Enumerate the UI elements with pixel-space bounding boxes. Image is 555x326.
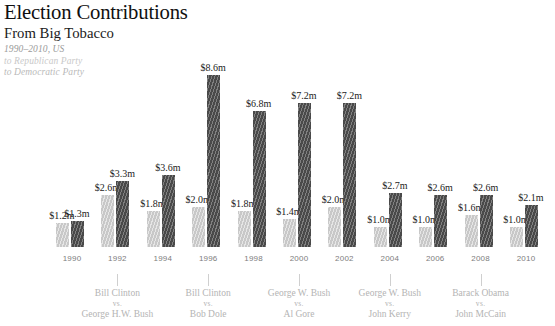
bar-rep-1998[interactable] xyxy=(238,211,251,247)
bar-rep-2008[interactable] xyxy=(465,215,478,247)
axis-tick-label-2006: 2006 xyxy=(415,254,455,263)
bar-group-2004: $1.0m$2.7m xyxy=(370,37,410,247)
bar-group-2006: $1.0m$2.6m xyxy=(415,37,455,247)
bar-rep-1994[interactable] xyxy=(147,211,160,247)
matchup-tick-line xyxy=(208,274,209,286)
bar-dem-2000[interactable] xyxy=(298,103,311,247)
bar-group-2002: $2.0m$7.2m xyxy=(324,37,364,247)
bar-value-label-dem-2002: $7.2m xyxy=(329,90,369,101)
bar-value-label-dem-1998: $6.8m xyxy=(239,98,279,109)
bar-rep-2002[interactable] xyxy=(328,207,341,247)
legend-item-democratic: to Democratic Party xyxy=(4,67,264,79)
bar-dem-1990[interactable] xyxy=(71,221,84,247)
election-matchup-2008: Barack Obamavs.John McCain xyxy=(416,287,546,320)
axis-tick-label-2000: 2000 xyxy=(279,254,319,263)
bar-dem-1996[interactable] xyxy=(207,75,220,247)
bar-value-label-dem-1990: $1.3m xyxy=(57,208,97,219)
matchup-tick-line xyxy=(117,274,118,286)
axis-tick-label-1992: 1992 xyxy=(97,254,137,263)
bar-group-2000: $1.4m$7.2m xyxy=(279,37,319,247)
bar-dem-1994[interactable] xyxy=(162,175,175,247)
bar-rep-1992[interactable] xyxy=(101,195,114,247)
page-title: Election Contributions xyxy=(4,0,248,23)
bar-pair: $1.0m$2.6m xyxy=(415,37,455,247)
matchup-challenger-name: John McCain xyxy=(416,308,546,320)
bar-pair: $1.4m$7.2m xyxy=(279,37,319,247)
matchup-vs-label: vs. xyxy=(416,299,546,308)
bar-pair: $2.0m$7.2m xyxy=(324,37,364,247)
chart-legend: 1990–2010, US to Republican Party to Dem… xyxy=(4,44,264,79)
chart-header: Election Contributions From Big Tobacco … xyxy=(4,0,264,79)
axis-tick-label-1990: 1990 xyxy=(52,254,92,263)
bar-dem-1992[interactable] xyxy=(116,181,129,247)
matchup-tick-line xyxy=(299,274,300,286)
date-range-label: 1990–2010, US xyxy=(4,44,264,56)
bar-value-label-dem-1994: $3.6m xyxy=(148,162,188,173)
page-subtitle: From Big Tobacco xyxy=(4,24,251,41)
bar-value-label-dem-2010: $2.1m xyxy=(511,192,551,203)
bar-group-2008: $1.6m$2.6m xyxy=(461,37,501,247)
axis-tick-label-2008: 2008 xyxy=(461,254,501,263)
bar-rep-2010[interactable] xyxy=(510,227,523,247)
bar-rep-2006[interactable] xyxy=(419,227,432,247)
bar-dem-2010[interactable] xyxy=(525,205,538,247)
bar-rep-2004[interactable] xyxy=(374,227,387,247)
bar-group-2010: $1.0m$2.1m xyxy=(506,37,546,247)
bar-dem-2002[interactable] xyxy=(343,103,356,247)
bar-rep-1990[interactable] xyxy=(56,223,69,247)
axis-tick-label-1996: 1996 xyxy=(188,254,228,263)
legend-item-republican: to Republican Party xyxy=(4,56,264,68)
axis-tick-label-2004: 2004 xyxy=(370,254,410,263)
bar-rep-2000[interactable] xyxy=(283,219,296,247)
bar-value-label-dem-2004: $2.7m xyxy=(375,180,415,191)
bar-pair: $1.0m$2.1m xyxy=(506,37,546,247)
bar-value-label-dem-1992: $3.3m xyxy=(102,168,142,179)
bar-rep-1996[interactable] xyxy=(192,207,205,247)
axis-tick-label-2002: 2002 xyxy=(324,254,364,263)
bar-value-label-dem-2006: $2.6m xyxy=(420,182,460,193)
matchup-tick-line xyxy=(481,274,482,286)
bar-dem-1998[interactable] xyxy=(253,111,266,247)
bar-pair: $1.6m$2.6m xyxy=(461,37,501,247)
bar-dem-2006[interactable] xyxy=(434,195,447,247)
bar-dem-2008[interactable] xyxy=(480,195,493,247)
matchup-tick-line xyxy=(390,274,391,286)
matchup-winner-name: Barack Obama xyxy=(416,287,546,299)
axis-tick-label-1994: 1994 xyxy=(143,254,183,263)
bar-value-label-dem-2000: $7.2m xyxy=(284,90,324,101)
bar-value-label-dem-2008: $2.6m xyxy=(466,182,506,193)
axis-tick-label-2010: 2010 xyxy=(506,254,546,263)
bar-pair: $1.0m$2.7m xyxy=(370,37,410,247)
bar-dem-2004[interactable] xyxy=(389,193,402,247)
axis-tick-label-1998: 1998 xyxy=(234,254,274,263)
